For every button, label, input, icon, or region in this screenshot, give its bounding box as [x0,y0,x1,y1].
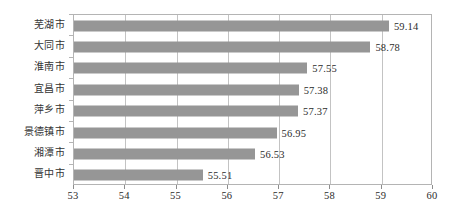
category-label: 湘潭市 [34,148,65,158]
category-label: 宜昌市 [34,84,65,94]
bar [74,63,307,74]
value-axis-tick [227,185,228,189]
bar-value-label: 57.38 [304,84,329,95]
category-label-row: 景德镇市 [0,121,68,142]
bar [74,42,370,53]
bar-row: 57.55 [74,58,431,79]
bar [74,84,299,95]
category-label: 景德镇市 [24,127,65,137]
bar-row: 56.53 [74,143,431,164]
value-axis-tick-label: 57 [273,190,284,201]
bar-row: 57.38 [74,79,431,100]
value-axis-tick [73,185,74,189]
bar-value-label: 57.55 [312,63,337,74]
value-axis: 5354555657585960 [73,185,432,219]
bar-row: 55.51 [74,165,431,186]
category-label-row: 萍乡市 [0,100,68,121]
category-label-row: 淮南市 [0,57,68,78]
bar-row: 58.78 [74,36,431,57]
value-axis-tick [176,185,177,189]
value-axis-tick [432,185,433,189]
bar-row: 56.95 [74,122,431,143]
bar [74,170,203,181]
category-label-row: 宜昌市 [0,78,68,99]
value-axis-tick-label: 56 [221,190,232,201]
bar [74,106,298,117]
category-label: 淮南市 [34,62,65,72]
bar-value-label: 58.78 [375,42,400,53]
value-axis-tick [381,185,382,189]
bar-value-label: 56.95 [282,127,307,138]
value-axis-tick-label: 53 [68,190,79,201]
bar-row: 59.14 [74,15,431,36]
category-label: 萍乡市 [34,105,65,115]
bar-chart: 芜湖市大同市淮南市宜昌市萍乡市景德镇市湘潭市晋中市 59.1458.7857.5… [0,0,453,219]
category-label-row: 大同市 [0,35,68,56]
bar [74,127,277,138]
plot-area: 59.1458.7857.5557.3857.3756.9556.5355.51 [73,14,432,185]
value-axis-tick [278,185,279,189]
bars-layer: 59.1458.7857.5557.3857.3756.9556.5355.51 [74,15,431,184]
value-axis-tick [329,185,330,189]
category-label: 芜湖市 [34,20,65,30]
bar-value-label: 59.14 [394,20,419,31]
value-axis-tick-label: 60 [427,190,438,201]
category-label-row: 晋中市 [0,164,68,185]
value-axis-tick [124,185,125,189]
bar-value-label: 57.37 [303,106,328,117]
value-axis-tick-label: 58 [324,190,335,201]
value-axis-tick-label: 59 [375,190,386,201]
bar [74,148,255,159]
value-axis-tick-label: 55 [170,190,181,201]
bar-value-label: 55.51 [208,170,233,181]
category-label: 大同市 [34,41,65,51]
category-axis-labels: 芜湖市大同市淮南市宜昌市萍乡市景德镇市湘潭市晋中市 [0,14,70,185]
bar-value-label: 56.53 [260,148,285,159]
category-label-row: 芜湖市 [0,14,68,35]
value-axis-tick-label: 54 [119,190,130,201]
bar-row: 57.37 [74,101,431,122]
category-label: 晋中市 [34,169,65,179]
category-label-row: 湘潭市 [0,142,68,163]
bar [74,20,389,31]
